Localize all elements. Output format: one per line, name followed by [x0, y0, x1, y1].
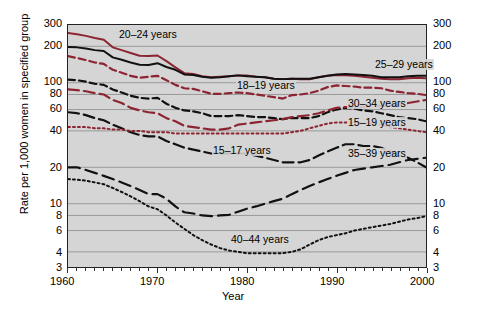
y-tick-label-right-20: 20	[433, 162, 487, 173]
x-minor-tick	[211, 268, 212, 271]
x-minor-tick	[85, 268, 86, 271]
y-tick-label-right-60: 60	[433, 103, 487, 114]
x-minor-tick	[418, 268, 419, 271]
y-tick-label-right-8: 8	[433, 210, 487, 221]
y-tick-label-left-8: 8	[8, 210, 62, 221]
x-minor-tick	[130, 268, 131, 271]
y-tick-label-right-4: 4	[433, 247, 487, 258]
series-annotation-0: 20–24 years	[118, 29, 178, 40]
x-minor-tick	[274, 268, 275, 271]
x-minor-tick	[265, 268, 266, 271]
x-tick-label-1960: 1960	[50, 276, 74, 287]
x-minor-tick	[355, 268, 356, 271]
x-minor-tick	[139, 268, 140, 271]
x-minor-tick	[202, 268, 203, 271]
chart-figure: Rate per 1,000 women in specified group …	[0, 0, 496, 311]
y-tick-label-left-80: 80	[8, 88, 62, 99]
y-tick-label-right-40: 40	[433, 125, 487, 136]
x-minor-tick	[184, 268, 185, 271]
series-line-6	[68, 158, 426, 216]
x-minor-tick	[409, 268, 410, 271]
y-tick-label-left-40: 40	[8, 125, 62, 136]
x-minor-tick	[166, 268, 167, 271]
x-minor-tick	[121, 268, 122, 271]
y-tick-label-right-200: 200	[433, 40, 487, 51]
x-minor-tick	[238, 268, 239, 271]
y-tick-label-right-300: 300	[433, 18, 487, 29]
x-minor-tick	[94, 268, 95, 271]
y-tick-label-right-3: 3	[433, 262, 487, 273]
y-tick-label-left-3: 3	[8, 262, 62, 273]
series-annotation-5: 15–17 years	[212, 145, 272, 156]
x-minor-tick	[220, 268, 221, 271]
series-annotation-4: 15–19 years	[347, 117, 407, 128]
series-annotation-7: 40–44 years	[230, 234, 290, 245]
x-tick-label-2000: 2000	[410, 276, 434, 287]
x-minor-tick	[310, 268, 311, 271]
x-tick-label-1990: 1990	[320, 276, 344, 287]
x-minor-tick	[328, 268, 329, 271]
y-tick-label-right-100: 100	[433, 76, 487, 87]
series-annotation-1: 25–29 years	[374, 59, 434, 70]
x-minor-tick	[292, 268, 293, 271]
x-minor-tick	[400, 268, 401, 271]
x-minor-tick	[256, 268, 257, 271]
x-minor-tick	[148, 268, 149, 271]
y-tick-label-left-20: 20	[8, 162, 62, 173]
x-minor-tick	[364, 268, 365, 271]
y-tick-label-left-300: 300	[8, 18, 62, 29]
x-axis-title: Year	[222, 290, 244, 302]
x-minor-tick	[157, 268, 158, 273]
x-minor-tick	[346, 268, 347, 271]
x-minor-tick	[337, 268, 338, 273]
y-tick-label-left-6: 6	[8, 225, 62, 236]
x-minor-tick	[391, 268, 392, 271]
x-minor-tick	[103, 268, 104, 271]
x-minor-tick	[373, 268, 374, 271]
x-minor-tick	[247, 268, 248, 273]
x-minor-tick	[283, 268, 284, 271]
x-minor-tick	[193, 268, 194, 271]
series-line-1	[68, 47, 426, 79]
x-minor-tick	[301, 268, 302, 271]
y-tick-label-right-10: 10	[433, 198, 487, 209]
series-annotation-3: 30–34 years	[347, 98, 407, 109]
y-tick-label-left-200: 200	[8, 40, 62, 51]
x-minor-tick	[67, 268, 68, 273]
x-minor-tick	[76, 268, 77, 271]
x-tick-label-1980: 1980	[230, 276, 254, 287]
x-minor-tick	[175, 268, 176, 271]
y-tick-label-left-10: 10	[8, 198, 62, 209]
x-minor-tick	[112, 268, 113, 271]
y-tick-label-left-4: 4	[8, 247, 62, 258]
y-tick-label-right-80: 80	[433, 88, 487, 99]
x-minor-tick	[427, 268, 428, 273]
x-tick-label-1970: 1970	[140, 276, 164, 287]
x-minor-tick	[382, 268, 383, 271]
x-minor-tick	[319, 268, 320, 271]
series-annotation-2: 18–19 years	[236, 80, 296, 91]
x-minor-tick	[229, 268, 230, 271]
y-tick-label-left-100: 100	[8, 76, 62, 87]
y-tick-label-left-60: 60	[8, 103, 62, 114]
y-tick-label-right-6: 6	[433, 225, 487, 236]
series-annotation-6: 35–39 years	[347, 148, 407, 159]
